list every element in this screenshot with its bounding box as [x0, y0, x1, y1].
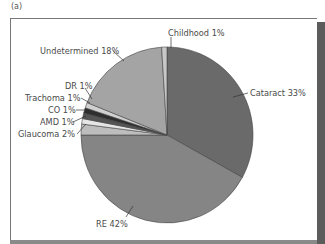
- label-trachoma: Trachoma 1%: [24, 93, 81, 103]
- label-cataract: Cataract 33%: [250, 88, 306, 98]
- label-undetermined: Undetermined 18%: [40, 46, 120, 56]
- label-glaucoma: Glaucoma 2%: [18, 129, 75, 139]
- label-childhood: Childhood 1%: [168, 28, 225, 38]
- label-re: RE 42%: [96, 219, 128, 229]
- label-amd: AMD 1%: [40, 117, 75, 127]
- label-co: CO 1%: [48, 105, 76, 115]
- pie-chart: Childhood 1% Undetermined 18% DR 1% Trac…: [0, 0, 325, 244]
- label-dr: DR 1%: [65, 81, 93, 91]
- pie-slices: [81, 47, 253, 223]
